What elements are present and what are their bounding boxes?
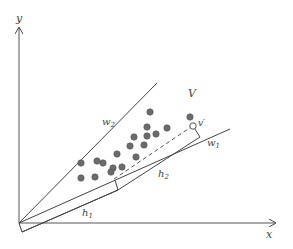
data-point bbox=[78, 175, 84, 181]
h1-lower-line bbox=[22, 190, 118, 232]
data-point bbox=[164, 125, 170, 131]
data-points bbox=[78, 109, 193, 181]
v-prime-point bbox=[190, 123, 196, 129]
data-point bbox=[153, 131, 159, 137]
data-point bbox=[187, 114, 193, 120]
data-point bbox=[78, 160, 84, 166]
region-label-v: V bbox=[188, 87, 197, 100]
data-point bbox=[114, 151, 120, 157]
data-point bbox=[108, 169, 114, 175]
w1-line bbox=[19, 129, 230, 223]
data-point bbox=[127, 143, 133, 149]
w2-label: w2 bbox=[102, 116, 116, 129]
data-point bbox=[92, 174, 98, 180]
x-axis-label: x bbox=[266, 228, 273, 241]
v-prime-label: v′ bbox=[198, 118, 205, 128]
diagram-canvas: y x V w2 w1 h2 h1 v′ bbox=[0, 0, 293, 249]
data-point bbox=[133, 154, 139, 160]
data-point bbox=[144, 133, 150, 139]
w2-line bbox=[19, 83, 157, 223]
data-point bbox=[100, 160, 106, 166]
data-point bbox=[94, 158, 100, 164]
data-point bbox=[119, 164, 125, 170]
h1-label: h1 bbox=[82, 207, 93, 220]
data-point bbox=[144, 124, 150, 130]
h2-label: h2 bbox=[158, 168, 169, 181]
y-axis-label: y bbox=[15, 12, 23, 25]
w1-label: w1 bbox=[207, 137, 220, 150]
data-point bbox=[141, 142, 147, 148]
data-point bbox=[131, 134, 137, 140]
h1-strip bbox=[19, 180, 118, 232]
data-point bbox=[147, 109, 153, 115]
projection-dashed-line bbox=[114, 127, 191, 179]
